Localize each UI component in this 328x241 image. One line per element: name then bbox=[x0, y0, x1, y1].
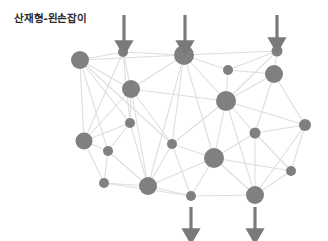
graph-node[interactable] bbox=[265, 65, 283, 83]
graph-edge bbox=[184, 55, 214, 158]
graph-edge bbox=[131, 89, 172, 144]
graph-node[interactable] bbox=[99, 178, 109, 188]
graph-node[interactable] bbox=[299, 119, 311, 131]
graph-edge bbox=[291, 125, 305, 171]
graph-node[interactable] bbox=[125, 118, 135, 128]
graph-node[interactable] bbox=[71, 51, 89, 69]
graph-node[interactable] bbox=[246, 186, 264, 204]
graph-edge bbox=[131, 89, 148, 186]
graph-node[interactable] bbox=[216, 91, 236, 111]
graph-edge bbox=[255, 125, 305, 195]
diagram-canvas: 산재형-왼손잡이 bbox=[0, 0, 328, 241]
graph-node[interactable] bbox=[272, 46, 283, 57]
graph-node[interactable] bbox=[139, 177, 157, 195]
graph-node[interactable] bbox=[122, 80, 140, 98]
graph-node[interactable] bbox=[223, 65, 233, 75]
graph-node[interactable] bbox=[174, 45, 194, 65]
graph-node[interactable] bbox=[204, 148, 224, 168]
network-graph bbox=[0, 0, 328, 241]
graph-edge bbox=[255, 125, 305, 133]
node-layer bbox=[71, 45, 311, 204]
graph-node[interactable] bbox=[118, 47, 128, 57]
graph-edge bbox=[191, 195, 255, 196]
graph-edge bbox=[80, 60, 172, 144]
graph-node[interactable] bbox=[250, 128, 261, 139]
graph-node[interactable] bbox=[103, 146, 113, 156]
graph-edge bbox=[184, 51, 277, 55]
graph-node[interactable] bbox=[76, 133, 93, 150]
graph-node[interactable] bbox=[186, 191, 196, 201]
graph-edge bbox=[172, 55, 184, 144]
graph-node[interactable] bbox=[286, 166, 296, 176]
graph-edge bbox=[148, 158, 214, 186]
graph-node[interactable] bbox=[167, 139, 177, 149]
graph-edge bbox=[172, 144, 191, 196]
